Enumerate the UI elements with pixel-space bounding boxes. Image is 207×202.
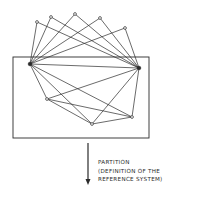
- node-B1: [46, 98, 49, 101]
- node-R: [137, 66, 141, 70]
- node-T5: [124, 27, 127, 30]
- node-B2: [91, 123, 94, 126]
- edge-T2-R: [51, 17, 139, 68]
- node-B3: [131, 116, 134, 119]
- caption-line-3: REFERENCE SYSTEM): [98, 175, 163, 184]
- node-L: [28, 62, 32, 66]
- edge-R-B1: [47, 68, 139, 99]
- caption-line-2: (DEFINITION OF THE: [98, 167, 163, 176]
- partition-box: [13, 57, 149, 138]
- edge-L-R: [30, 64, 139, 68]
- node-T1: [36, 21, 39, 24]
- edge-B2-B3: [92, 117, 132, 124]
- edge-B1-B2: [47, 99, 92, 124]
- edge-T5-L: [30, 28, 125, 64]
- edge-L-B1: [30, 64, 47, 99]
- partition-caption: PARTITION (DEFINITION OF THE REFERENCE S…: [98, 158, 163, 184]
- node-T3: [74, 13, 77, 16]
- caption-line-1: PARTITION: [98, 158, 163, 167]
- down-arrow-icon: [86, 143, 91, 185]
- node-T4: [99, 17, 102, 20]
- graph-edges: [30, 14, 139, 124]
- edge-B1-B3: [47, 99, 132, 117]
- edge-L-B3: [30, 64, 132, 117]
- edge-T4-R: [100, 18, 139, 68]
- node-T2: [50, 16, 53, 19]
